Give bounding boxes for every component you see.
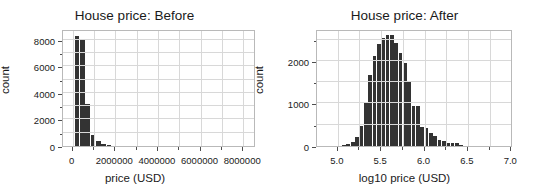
y-tick-minor <box>314 83 317 84</box>
x-tick-minor <box>93 147 94 150</box>
x-tick-minor <box>402 147 403 150</box>
x-tick-major <box>337 147 338 151</box>
x-tick-major <box>200 147 201 151</box>
x-tick-label: 5.5 <box>374 155 387 166</box>
x-tick-major <box>157 147 158 151</box>
y-axis-label-before: count <box>0 66 11 94</box>
x-tick-label: 8000000 <box>224 155 261 166</box>
x-tick-minor <box>489 147 490 150</box>
chart-panel-after: House price: After 0100020005.05.56.06.5… <box>270 0 539 196</box>
figure-canvas: House price: Before 02000400060008000020… <box>0 0 539 196</box>
y-tick-minor <box>60 107 63 108</box>
y-tick-minor <box>60 81 63 82</box>
x-tick-label: 6.0 <box>417 155 430 166</box>
y-tick-major <box>58 94 62 95</box>
x-tick-label: 4000000 <box>138 155 175 166</box>
y-tick-label: 0 <box>304 142 309 153</box>
y-tick-label: 8000 <box>34 35 55 46</box>
x-tick-major <box>424 147 425 151</box>
y-tick-label: 0 <box>50 142 55 153</box>
y-tick-major <box>312 62 316 63</box>
x-axis-label-after: log10 price (USD) <box>270 172 539 184</box>
x-tick-minor <box>445 147 446 150</box>
y-tick-minor <box>314 41 317 42</box>
y-tick-major <box>312 104 316 105</box>
x-tick-label: 6.5 <box>460 155 473 166</box>
x-tick-major <box>380 147 381 151</box>
chart-panel-before: House price: Before 02000400060008000020… <box>0 0 269 196</box>
y-tick-major <box>312 147 316 148</box>
y-tick-label: 1000 <box>288 99 309 110</box>
y-tick-major <box>58 147 62 148</box>
y-tick-label: 4000 <box>34 88 55 99</box>
axes-before: 0200040006000800002000000400000060000008… <box>0 0 269 196</box>
axes-after: 0100020005.05.56.06.57.0 <box>270 0 539 196</box>
x-tick-label: 0 <box>69 155 74 166</box>
y-axis-label-after: count <box>253 66 265 94</box>
x-tick-major <box>242 147 243 151</box>
y-tick-label: 6000 <box>34 62 55 73</box>
x-tick-label: 7.0 <box>504 155 517 166</box>
x-tick-major <box>467 147 468 151</box>
x-tick-minor <box>358 147 359 150</box>
x-tick-major <box>114 147 115 151</box>
y-tick-major <box>58 41 62 42</box>
x-tick-label: 6000000 <box>181 155 218 166</box>
y-tick-minor <box>60 54 63 55</box>
x-axis-label-before: price (USD) <box>10 172 260 184</box>
x-tick-minor <box>178 147 179 150</box>
y-tick-minor <box>60 134 63 135</box>
y-tick-label: 2000 <box>288 56 309 67</box>
y-tick-label: 2000 <box>34 115 55 126</box>
y-tick-minor <box>314 126 317 127</box>
y-tick-major <box>58 120 62 121</box>
x-tick-label: 2000000 <box>96 155 133 166</box>
x-tick-minor <box>136 147 137 150</box>
x-tick-major <box>72 147 73 151</box>
y-tick-major <box>58 67 62 68</box>
x-tick-minor <box>221 147 222 150</box>
x-tick-major <box>510 147 511 151</box>
x-tick-label: 5.0 <box>330 155 343 166</box>
